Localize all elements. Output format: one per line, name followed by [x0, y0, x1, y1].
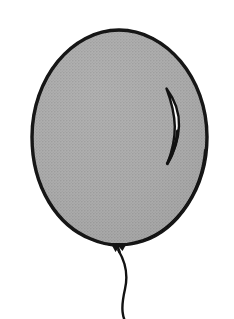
balloon-illustration-canvas: Black and white line drawing of a gray b…	[0, 0, 234, 319]
balloon-drawing	[0, 0, 234, 319]
